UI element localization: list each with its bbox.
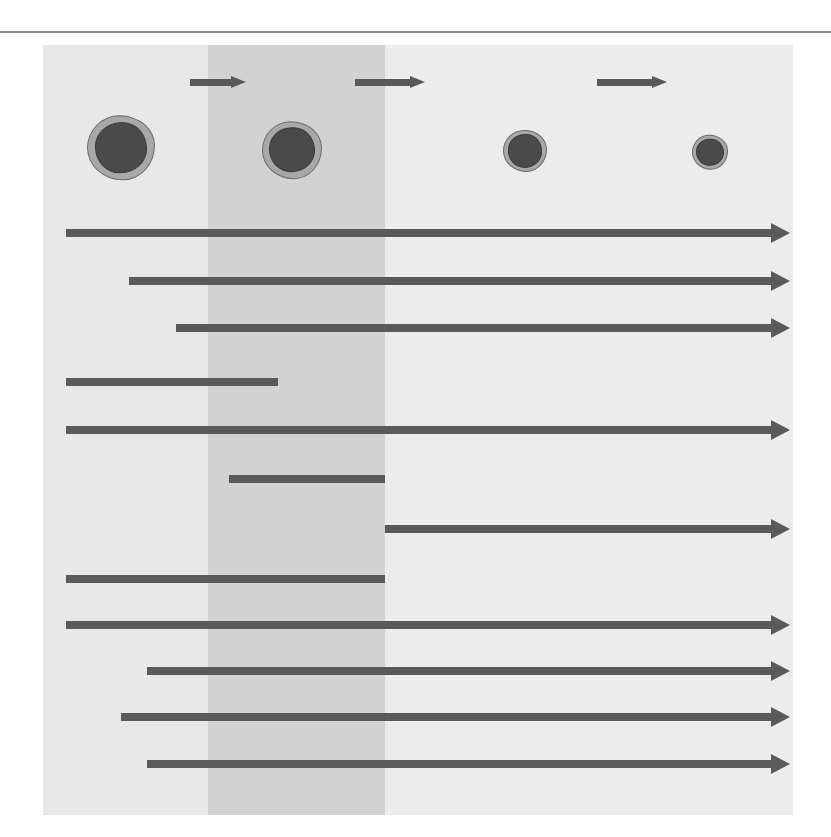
arrow-head-icon [410,76,425,88]
b-cell-illustration-pre-b [262,121,322,179]
marker-arrow-head-icon-cd20 [771,661,790,681]
marker-bar-pax5 [121,713,771,721]
cell-nucleus [95,123,147,174]
marker-arrow-head-icon-hla-dr [771,420,790,440]
b-cell-development-figure [0,0,831,837]
marker-bar-cd20 [147,667,771,675]
marker-arrow-head-icon-heavy-chain-gene-rearranged [771,223,790,243]
marker-bar-cytoplasmic [229,475,385,483]
top-divider-rule [0,31,831,33]
marker-bar-cd79a [147,760,771,768]
marker-bar-cd10 [66,575,385,583]
stage-transition-arrow-pro-b-to-pre-b [190,76,246,88]
marker-bar-kappa-light-chain-gene-rearranged [129,277,771,285]
b-cell-illustration-pro-b [87,115,155,180]
stage-transition-arrow-pre-b-to-early-b [355,76,425,88]
cell-nucleus [696,138,724,165]
marker-bar-cd19 [66,621,771,629]
marker-arrow-head-icon-cd19 [771,615,790,635]
arrow-shaft [597,79,652,86]
b-cell-illustration-mature-b [692,135,728,170]
marker-bar-lambda-light-chain-gene-rearranged [176,324,771,332]
arrow-head-icon [652,76,667,88]
arrow-shaft [190,79,231,86]
arrow-head-icon [231,76,246,88]
marker-bar-tdt [66,378,278,386]
arrow-shaft [355,79,410,86]
marker-bar-heavy-chain-gene-rearranged [66,229,771,237]
marker-arrow-head-icon-pax5 [771,707,790,727]
stage-transition-arrow-early-b-to-mature-b [597,76,667,88]
b-cell-illustration-early-b [503,130,547,172]
marker-bar-hla-dr [66,426,771,434]
cell-nucleus [508,134,542,167]
cell-nucleus [269,127,315,172]
marker-arrow-head-icon-cd79a [771,754,790,774]
diagram-panel [43,45,793,815]
marker-arrow-head-icon-lambda-light-chain-gene-rearranged [771,318,790,338]
marker-arrow-head-icon-surface-immunoglobin [771,519,790,539]
marker-arrow-head-icon-kappa-light-chain-gene-rearranged [771,271,790,291]
marker-bar-surface-immunoglobin [385,525,771,533]
